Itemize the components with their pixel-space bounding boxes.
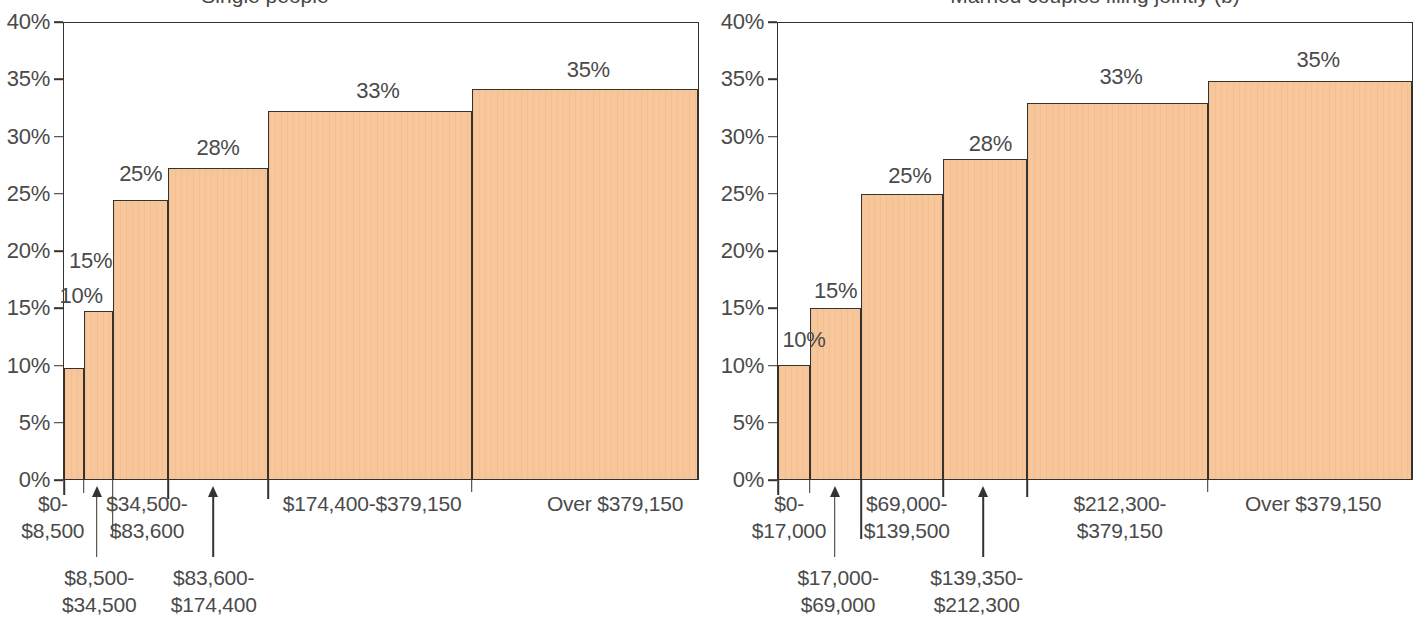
- chart-married-couples: Married couples filing jointly (b) 40%35…: [712, 0, 1423, 625]
- y-axis-tick: [768, 21, 777, 23]
- chart-title: Married couples filing jointly (b): [950, 0, 1239, 6]
- up-arrow-icon: [976, 486, 990, 557]
- up-arrow-icon: [206, 486, 220, 557]
- y-axis-tick-label: 25%: [7, 183, 50, 205]
- chart-single-people: Single people 40%35%30%25%20%15%10%5%0% …: [0, 0, 711, 625]
- x-bracket-label: $34,500-$83,600: [106, 490, 187, 544]
- x-bracket-label: Over $379,150: [1245, 490, 1381, 517]
- x-bracket-label-line: $69,000-: [864, 490, 950, 517]
- x-axis-labels: $0-$17,000$69,000-$139,500$212,300-$379,…: [777, 490, 1413, 625]
- plot-area: 10%15%25%28%33%35%: [777, 22, 1413, 480]
- y-axis-tick: [54, 365, 63, 367]
- bar-value-label: 25%: [888, 165, 931, 187]
- bar-value-label: 10%: [60, 285, 103, 307]
- up-arrow-icon: [90, 486, 104, 557]
- bar-segment: [113, 200, 168, 479]
- bar-value-label: 35%: [1297, 49, 1340, 71]
- y-axis-tick-label: 20%: [721, 240, 764, 262]
- bar-segment: [943, 159, 1027, 479]
- y-axis-tick-label: 15%: [721, 297, 764, 319]
- arrow-shaft: [982, 495, 984, 557]
- bar-value-label: 33%: [1099, 66, 1142, 88]
- y-axis-tick-label: 20%: [7, 240, 50, 262]
- x-bracket-label-line: $0-: [21, 490, 84, 517]
- y-axis: 40%35%30%25%20%15%10%5%0%: [712, 22, 777, 480]
- x-bracket-label-line: $83,600: [106, 517, 187, 544]
- x-bracket-label-line: $379,150: [1073, 517, 1166, 544]
- y-axis: 40%35%30%25%20%15%10%5%0%: [0, 22, 63, 480]
- chart-title-cropped-strip: Single people: [0, 0, 711, 8]
- x-bracket-label-line: $34,500-: [106, 490, 187, 517]
- y-axis-tick-label: 35%: [721, 68, 764, 90]
- x-axis-labels: $0-$8,500$34,500-$83,600$174,400-$379,15…: [63, 490, 699, 625]
- y-axis-tick-label: 15%: [7, 297, 50, 319]
- x-bracket-label-line: $17,000: [752, 517, 827, 544]
- x-bracket-label-line: $139,350-: [930, 564, 1023, 591]
- y-axis-tick: [54, 136, 63, 138]
- arrow-shaft: [212, 495, 214, 557]
- x-bracket-label: $0-$17,000: [752, 490, 827, 544]
- y-axis-tick-label: 40%: [721, 11, 764, 33]
- bar-value-label: 35%: [567, 59, 610, 81]
- x-bracket-label: $8,500-$34,500: [62, 564, 137, 618]
- y-axis-tick-label: 10%: [721, 355, 764, 377]
- arrow-shaft: [96, 495, 98, 557]
- x-bracket-label: $83,600-$174,400: [171, 564, 257, 618]
- y-axis-tick: [54, 21, 63, 23]
- bar-segment: [1027, 103, 1208, 479]
- bar-segment: [64, 368, 84, 479]
- y-axis-tick-label: 25%: [721, 183, 764, 205]
- x-bracket-label-line: $8,500: [21, 517, 84, 544]
- x-bracket-label-line: $83,600-: [171, 564, 257, 591]
- bar-segment: [778, 365, 810, 479]
- x-bracket-label-line: $8,500-: [62, 564, 137, 591]
- bar-segment: [1208, 81, 1412, 479]
- y-axis-tick: [768, 250, 777, 252]
- bar-segment: [84, 311, 113, 479]
- y-axis-tick-label: 5%: [19, 412, 50, 434]
- bar-value-label: 15%: [69, 250, 112, 272]
- x-bracket-label-line: Over $379,150: [547, 490, 683, 517]
- bar-segment: [472, 89, 698, 479]
- up-arrow-icon: [828, 486, 842, 557]
- x-bracket-label-line: $69,000: [797, 591, 878, 618]
- x-bracket-label: $174,400-$379,150: [283, 490, 462, 517]
- x-bracket-label: $139,350-$212,300: [930, 564, 1023, 618]
- chart-title-cropped-strip: Married couples filing jointly (b): [712, 0, 1423, 8]
- arrow-shaft: [834, 495, 836, 557]
- chart-title: Single people: [201, 0, 328, 6]
- y-axis-tick: [768, 479, 777, 481]
- y-axis-tick: [768, 422, 777, 424]
- x-bracket-label: $17,000-$69,000: [797, 564, 878, 618]
- y-axis-tick-label: 30%: [7, 126, 50, 148]
- x-bracket-label: $212,300-$379,150: [1073, 490, 1166, 544]
- y-axis-tick-label: 5%: [733, 412, 764, 434]
- bar-segment: [861, 194, 943, 479]
- x-bracket-label-line: $139,500: [864, 517, 950, 544]
- y-axis-tick-label: 35%: [7, 68, 50, 90]
- bar-value-label: 28%: [196, 137, 239, 159]
- x-bracket-label: $69,000-$139,500: [864, 490, 950, 544]
- x-bracket-label-line: $174,400-$379,150: [283, 490, 462, 517]
- y-axis-tick: [54, 479, 63, 481]
- y-axis-tick-label: 0%: [19, 469, 50, 491]
- bar-value-label: 15%: [814, 280, 857, 302]
- x-bracket-label: Over $379,150: [547, 490, 683, 517]
- bar-value-label: 10%: [782, 329, 825, 351]
- bar-value-label: 28%: [969, 133, 1012, 155]
- bar-segment: [268, 111, 472, 479]
- y-axis-tick: [768, 193, 777, 195]
- y-axis-tick-label: 40%: [7, 11, 50, 33]
- y-axis-tick-label: 0%: [733, 469, 764, 491]
- y-axis-tick: [768, 365, 777, 367]
- y-axis-tick-label: 10%: [7, 355, 50, 377]
- x-bracket-label-line: $212,300-: [1073, 490, 1166, 517]
- x-bracket-label-line: $174,400: [171, 591, 257, 618]
- y-axis-tick: [768, 78, 777, 80]
- tax-rates-figure: Single people 40%35%30%25%20%15%10%5%0% …: [0, 0, 1423, 625]
- x-bracket-label: $0-$8,500: [21, 490, 84, 544]
- y-axis-tick: [54, 193, 63, 195]
- x-bracket-label-line: $0-: [752, 490, 827, 517]
- x-bracket-label-line: $34,500: [62, 591, 137, 618]
- x-bracket-label-line: $212,300: [930, 591, 1023, 618]
